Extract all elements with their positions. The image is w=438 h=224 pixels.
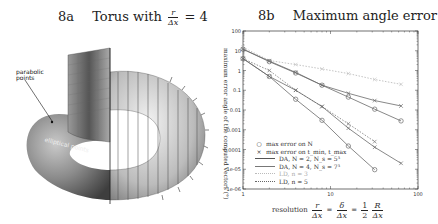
y-tick-label: 1	[238, 68, 241, 74]
legend-item-da-n4: DA, N = 4, N_s = 7³	[255, 163, 346, 171]
series-line	[243, 47, 401, 84]
chart-legend: ○ max error on N × max error on t_min, t…	[255, 140, 346, 185]
y-tick-label: 0.01	[230, 107, 241, 113]
series-line	[243, 49, 401, 106]
chart-plot: 1001010.10.010.0010.00011e-051e-06110100	[222, 0, 438, 224]
data-point-circle	[399, 119, 403, 123]
parabolic-points-label: parabolic points	[16, 69, 44, 81]
data-point-cross	[347, 126, 351, 130]
y-tick-label: 100	[231, 28, 241, 34]
y-tick-label: 0.0001	[224, 147, 242, 153]
y-tick-label: 0.1	[233, 87, 241, 93]
y-tick-label: 1e-06	[227, 186, 241, 192]
error-chart-panel: 8b Maximum angle error maximum error ang…	[222, 0, 438, 224]
data-point-cross	[399, 162, 403, 166]
chart-x-axis-label: resolution rΔx = δΔx = 12RΔx	[272, 201, 385, 220]
y-tick-label: 0.001	[227, 127, 241, 133]
data-point-cross	[294, 88, 298, 92]
data-point-cross	[347, 122, 351, 126]
legend-item-cross: × max error on t_min, t_max	[255, 148, 346, 156]
legend-item-ld-n3: LD, n = 3	[255, 170, 346, 178]
x-tick-label: 10	[327, 191, 333, 197]
x-tick-label: 1	[241, 191, 244, 197]
torus-render	[0, 0, 222, 224]
y-tick-label: 1e-05	[227, 166, 241, 172]
data-point-cross	[268, 69, 272, 73]
legend-item-circle: ○ max error on N	[255, 140, 346, 148]
y-tick-label: 10	[235, 48, 241, 54]
torus-panel: 8a Torus with r Δx = 4	[0, 0, 222, 224]
x-tick-label: 100	[413, 191, 423, 197]
data-point-cross	[373, 140, 377, 144]
legend-item-ld-n5: LD, n = 5	[255, 178, 346, 186]
legend-item-da-n2: DA, N = 2, N_s = 5³	[255, 155, 346, 163]
data-point-cross	[373, 145, 377, 149]
data-point-cross	[320, 105, 324, 109]
